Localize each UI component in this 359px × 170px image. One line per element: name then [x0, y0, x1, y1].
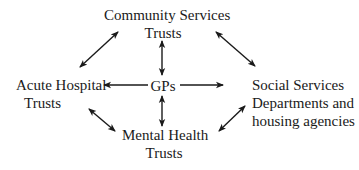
node-mental-health-trusts: Mental Health Trusts — [122, 126, 206, 162]
node-label-line: Acute Hospital — [16, 76, 100, 94]
node-label-line: Departments and — [252, 94, 355, 112]
node-social-services-housing: Social Services Departments and housing … — [252, 76, 355, 130]
node-label-line: Trusts — [122, 144, 206, 162]
node-label-line: Trusts — [104, 24, 222, 42]
node-gps: GPs — [146, 77, 180, 95]
node-label-line: GPs — [146, 77, 180, 95]
node-community-services-trusts: Community Services Trusts — [104, 6, 222, 42]
organization-network-diagram: Community Services Trusts GPs Acute Hosp… — [0, 0, 359, 170]
arrow-acute-mental — [89, 109, 115, 131]
node-label-line: Social Services — [252, 76, 355, 94]
node-acute-hospital-trusts: Acute Hospital Trusts — [0, 76, 100, 112]
node-label-line: Community Services — [104, 6, 222, 24]
node-label-line: housing agencies — [252, 112, 355, 130]
arrow-mental-social — [219, 106, 245, 131]
node-label-line: Mental Health — [122, 126, 206, 144]
node-label-line: Trusts — [16, 94, 100, 112]
